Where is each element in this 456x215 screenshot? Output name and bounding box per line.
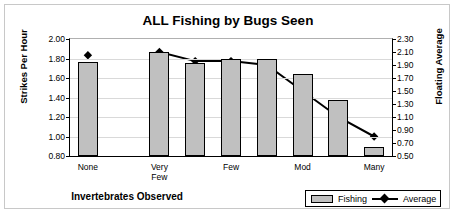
bar: [257, 59, 277, 157]
x-axis-label: Invertebrates Observed: [27, 191, 227, 202]
bar: [364, 147, 384, 156]
y-tick-label-secondary: 2.30: [397, 35, 427, 43]
y-tick-label-primary: 1.40: [35, 94, 65, 102]
bar: [185, 63, 205, 156]
y-tick-mark-secondary: [393, 78, 396, 79]
y-axis-label-secondary: Floating Average: [433, 2, 444, 132]
x-tick-label: Many: [344, 162, 404, 172]
y-tick-mark-secondary: [393, 91, 396, 92]
y-tick-mark-secondary: [393, 156, 396, 157]
legend-swatch-fishing: [311, 195, 333, 203]
y-tick-label-secondary: 0.90: [397, 126, 427, 134]
y-tick-label-secondary: 1.30: [397, 100, 427, 108]
x-tick-label: Few: [201, 162, 261, 172]
legend-label-average: Average: [403, 194, 436, 204]
y-tick-mark-secondary: [393, 39, 396, 40]
y-tick-label-primary: 0.80: [35, 152, 65, 160]
plot-area: [69, 38, 393, 157]
bar: [149, 52, 169, 156]
legend-label-fishing: Fishing: [338, 194, 367, 204]
chart-frame: ALL Fishing by Bugs Seen Strikes Per Hou…: [4, 4, 450, 209]
y-tick-mark-secondary: [393, 143, 396, 144]
x-tick-label: Mod: [273, 162, 333, 172]
x-tick-label: VeryFew: [129, 162, 189, 182]
y-tick-label-primary: 1.00: [35, 133, 65, 141]
y-tick-mark-secondary: [393, 130, 396, 131]
y-tick-label-primary: 1.60: [35, 74, 65, 82]
y-tick-label-secondary: 0.70: [397, 139, 427, 147]
y-tick-label-secondary: 2.10: [397, 48, 427, 56]
y-tick-label-secondary: 0.50: [397, 152, 427, 160]
y-tick-mark-secondary: [393, 52, 396, 53]
y-tick-label-primary: 1.20: [35, 113, 65, 121]
legend-diamond-marker: [380, 193, 390, 203]
y-tick-mark-secondary: [393, 104, 396, 105]
y-tick-label-secondary: 1.90: [397, 61, 427, 69]
chart-legend: Fishing Average: [305, 190, 441, 207]
y-tick-label-secondary: 1.70: [397, 74, 427, 82]
bar: [328, 100, 348, 156]
y-tick-label-primary: 2.00: [35, 35, 65, 43]
y-tick-label-secondary: 1.50: [397, 87, 427, 95]
bar: [78, 62, 98, 156]
bar: [221, 59, 241, 157]
y-tick-mark-secondary: [393, 117, 396, 118]
chart-title: ALL Fishing by Bugs Seen: [5, 13, 451, 28]
y-tick-label-secondary: 1.10: [397, 113, 427, 121]
x-tick-label: None: [58, 162, 118, 172]
y-tick-mark-secondary: [393, 65, 396, 66]
legend-line-diamond-icon: [372, 195, 398, 203]
y-axis-label-primary: Strikes Per Hour: [18, 2, 29, 132]
y-tick-label-primary: 1.80: [35, 55, 65, 63]
bar: [293, 74, 313, 156]
